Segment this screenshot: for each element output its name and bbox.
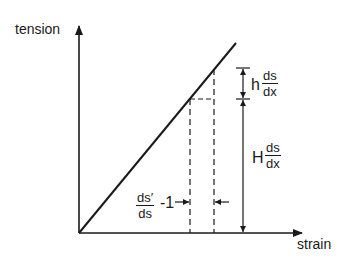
strain-minus-one: -1 [160,195,174,211]
tension-strain-diagram [0,0,358,259]
H-frac-numerator: ds [265,141,281,156]
y-axis-label: tension [15,22,60,36]
h-symbol: h [251,77,260,93]
h-frac-numerator: ds [262,69,278,84]
tension-strain-line [79,43,236,233]
h-frac-denominator: dx [263,84,277,98]
strain-fraction: ds′ ds [136,191,154,220]
strain-frac-denominator: ds [138,206,152,220]
x-axis-label: strain [297,237,331,251]
strain-frac-numerator: ds′ [136,191,154,206]
H-symbol: H [252,150,264,166]
H-fraction: ds dx [265,141,281,170]
h-fraction: ds dx [262,69,278,98]
H-frac-denominator: dx [266,156,280,170]
